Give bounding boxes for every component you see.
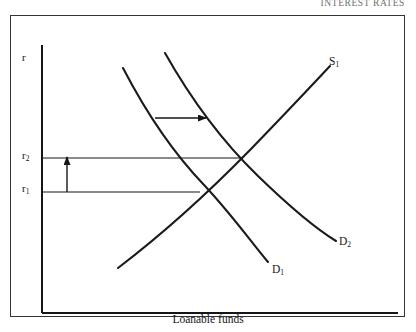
supply-curve-s1 (118, 66, 330, 268)
tick-label-r1-subscript: 1 (26, 187, 30, 196)
curves (118, 53, 336, 268)
curve-label-s1-subscript: 1 (335, 60, 339, 69)
tick-label-r2-subscript: 2 (26, 154, 30, 163)
figure-page: INTEREST RATES r r2 r1 S1 D2 D (0, 0, 416, 332)
curve-label-d2-subscript: 2 (347, 240, 351, 249)
curve-label-d1: D1 (272, 263, 284, 275)
shift-annotations (67, 118, 206, 192)
y-axis-label: r (22, 51, 26, 63)
demand-curve-d2 (165, 53, 336, 241)
tick-label-r2: r2 (22, 149, 29, 161)
curve-label-s1: S1 (329, 55, 339, 67)
x-axis-title: Loanable funds (0, 313, 416, 325)
loanable-funds-chart (0, 0, 416, 332)
curve-label-d2: D2 (339, 235, 351, 247)
curve-label-d1-subscript: 1 (280, 268, 284, 277)
tick-label-r1: r1 (22, 182, 29, 194)
